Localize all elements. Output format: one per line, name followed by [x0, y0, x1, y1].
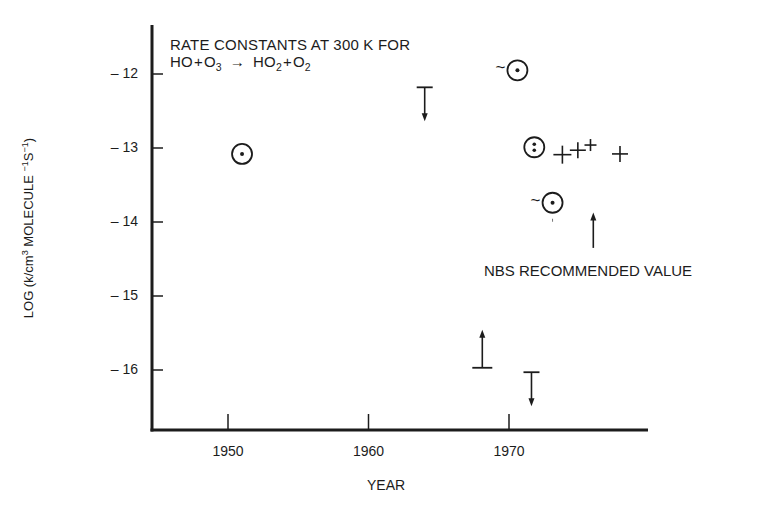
- arrow-up-icon: [479, 330, 485, 338]
- x-tick-label: 1970: [479, 443, 539, 459]
- o-symbol: O: [204, 53, 216, 70]
- dot: [240, 152, 244, 156]
- subscript-2: 2: [276, 61, 282, 73]
- chart-title-line-2: HO+O3→HO2+O2: [170, 53, 311, 73]
- ylabel-text: MOLECULE: [21, 172, 36, 251]
- arrow-up-icon: [590, 212, 596, 220]
- reactant-ho: HO: [170, 53, 193, 70]
- ylabel-sup: 3: [20, 250, 30, 255]
- ho-symbol: HO: [253, 53, 276, 70]
- ylabel-text: LOG (k/cm: [21, 255, 36, 318]
- dot: [551, 201, 555, 205]
- dot: [532, 148, 536, 152]
- x-tick-label: 1960: [339, 443, 399, 459]
- reaction-arrow: →: [230, 53, 245, 70]
- y-tick-label: – 12: [78, 65, 138, 81]
- y-tick-label: – 15: [78, 287, 138, 303]
- arrow-down-icon: [528, 398, 534, 406]
- y-tick-label: – 16: [78, 361, 138, 377]
- nbs-recommended-label: NBS RECOMMENDED VALUE: [484, 262, 692, 279]
- y-tick-label: – 14: [78, 213, 138, 229]
- subscript-2: 2: [305, 61, 311, 73]
- x-axis-title: YEAR: [367, 477, 405, 493]
- ylabel-text: ): [21, 138, 36, 142]
- x-tick-label: 1950: [198, 443, 258, 459]
- product-ho2: HO2: [253, 53, 282, 70]
- reactant-o3: O3: [204, 53, 222, 70]
- chart-title-line-1: RATE CONSTANTS AT 300 K FOR: [170, 36, 410, 53]
- dot: [532, 142, 536, 146]
- approx-tilde: ~: [531, 191, 541, 211]
- data-marks: [232, 60, 628, 406]
- subscript-3: 3: [216, 61, 222, 73]
- ylabel-sup: −1: [20, 142, 30, 152]
- ylabel-sup: −1: [20, 161, 30, 171]
- dot: [515, 68, 519, 72]
- ylabel-text: S: [21, 153, 36, 162]
- arrow-down-icon: [422, 113, 428, 121]
- o-symbol: O: [293, 53, 305, 70]
- axes: [151, 25, 649, 432]
- circle-point-marker: [524, 137, 544, 157]
- y-axis-title: LOG (k/cm3 MOLECULE −1S−1): [20, 138, 36, 318]
- plus-sign: +: [283, 53, 292, 70]
- plus-sign: +: [194, 53, 203, 70]
- product-o2: O2: [293, 53, 311, 70]
- y-tick-label: – 13: [78, 139, 138, 155]
- approx-tilde: ~: [495, 58, 505, 78]
